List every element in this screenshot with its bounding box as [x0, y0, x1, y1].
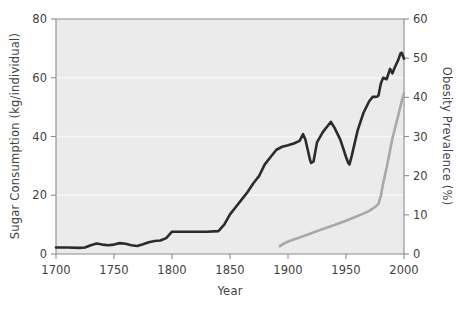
y-axis-right-tick-label: 30 — [413, 130, 428, 144]
x-axis-tick-label: 2000 — [389, 263, 418, 277]
y-axis-right-title: Obesity Prevalence (%) — [440, 67, 454, 206]
y-axis-right-tick-label: 0 — [413, 247, 420, 261]
x-axis-tick-label: 1700 — [41, 263, 70, 277]
sugar-obesity-dual-axis-line-chart: 020406080 0102030405060 1700175018001850… — [0, 0, 457, 309]
y-axis-left-tick-label: 80 — [32, 12, 47, 26]
y-axis-right-tick-label: 20 — [413, 169, 428, 183]
x-axis-tick-label: 1800 — [157, 263, 186, 277]
x-axis-tick-label: 1900 — [273, 263, 302, 277]
y-axis-left-tick-label: 40 — [32, 130, 47, 144]
x-axis-tick-label: 1850 — [215, 263, 244, 277]
y-axis-left-tick-label: 0 — [40, 247, 47, 261]
y-axis-left-title: Sugar Consumption (kg/individual) — [8, 33, 22, 239]
y-axis-left-ticks: 020406080 — [32, 12, 56, 261]
x-axis-tick-label: 1950 — [331, 263, 360, 277]
x-axis-tick-label: 1750 — [99, 263, 128, 277]
y-axis-right-tick-label: 10 — [413, 208, 428, 222]
y-axis-left-tick-label: 60 — [32, 71, 47, 85]
x-axis-title: Year — [216, 284, 242, 298]
y-axis-right-tick-label: 50 — [413, 51, 428, 65]
y-axis-left-tick-label: 20 — [32, 188, 47, 202]
y-axis-right-tick-label: 60 — [413, 12, 428, 26]
y-axis-right-ticks: 0102030405060 — [404, 12, 428, 261]
y-axis-right-tick-label: 40 — [413, 90, 428, 104]
x-axis-ticks: 1700175018001850190019502000 — [41, 254, 418, 277]
chart-container: 020406080 0102030405060 1700175018001850… — [0, 0, 457, 309]
